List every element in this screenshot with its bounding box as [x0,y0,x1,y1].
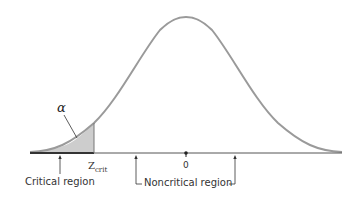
zero-label: 0 [183,160,189,170]
zcrit-main: Z [88,160,95,171]
alpha-pointer [64,115,77,138]
zcrit-label: Zcrit [88,160,107,174]
normal-curve-diagram [0,0,355,202]
zcrit-sub: crit [95,166,107,174]
critical-region-shading [30,123,94,153]
alpha-label: α [57,100,66,115]
noncritical-region-label: Noncritical region [144,177,232,188]
critical-region-label: Critical region [25,176,95,187]
normal-curve [30,17,342,152]
